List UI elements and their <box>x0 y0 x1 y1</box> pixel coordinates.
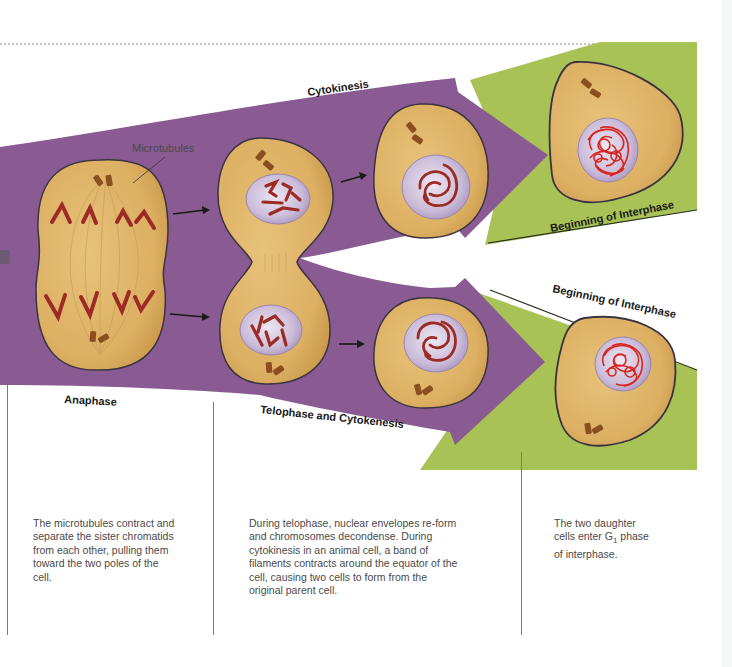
microtubules-label: Microtubules <box>132 142 195 154</box>
description-line: toward the two poles of the <box>33 557 208 570</box>
page-margin <box>722 0 732 667</box>
nucleus <box>240 305 302 355</box>
column-divider <box>213 402 214 635</box>
nucleus <box>402 155 470 219</box>
description-line: cells enter G1 phase <box>554 530 694 548</box>
anaphase-description: The microtubules contract and separate t… <box>33 517 208 584</box>
description-line: cell. <box>33 571 208 584</box>
description-line: cytokinesis in an animal cell, a band of <box>249 544 519 557</box>
description-line: of interphase. <box>554 548 694 561</box>
telophase-description: During telophase, nuclear envelopes re-f… <box>249 517 519 597</box>
text-fragment: phase <box>617 530 649 542</box>
description-line: The microtubules contract and <box>33 517 208 530</box>
description-line: During telophase, nuclear envelopes re-f… <box>249 517 519 530</box>
description-line: The two daughter <box>554 517 694 530</box>
column-divider <box>7 385 8 635</box>
description-line: cell, causing two cells to form from the <box>249 571 519 584</box>
band-edge-marker <box>0 250 10 264</box>
anaphase-label: Anaphase <box>64 393 117 408</box>
cytokinesis-cell-bottom <box>374 298 488 408</box>
description-line: filaments contracts around the equator o… <box>249 557 519 570</box>
interphase-label-bottom: Beginning of Interphase <box>552 282 678 320</box>
description-line: original parent cell. <box>249 584 519 597</box>
interphase-description: The two daughter cells enter G1 phase of… <box>554 517 694 561</box>
text-fragment: cells enter G <box>554 530 613 542</box>
anaphase-cell <box>36 160 168 370</box>
description-line: and chromosomes decondense. During <box>249 530 519 543</box>
mitosis-diagram: Microtubules <box>0 0 732 667</box>
centriole <box>89 331 96 342</box>
cytokinesis-cell-top <box>374 104 488 238</box>
column-divider <box>521 452 522 635</box>
description-line: from each other, pulling them <box>33 544 208 557</box>
centriole <box>266 362 273 373</box>
description-line: separate the sister chromatids <box>33 530 208 543</box>
